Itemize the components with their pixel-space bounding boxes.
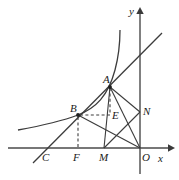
point-label-C: C [42, 152, 49, 163]
y-axis-label: y [129, 6, 134, 17]
point-label-A: A [103, 74, 110, 85]
point-label-N: N [143, 106, 150, 117]
point-dot-A [108, 85, 112, 89]
segment-A-M [104, 87, 110, 148]
y-axis-arrowhead [136, 7, 143, 14]
x-axis-label: x [158, 153, 163, 164]
point-label-M: M [99, 152, 108, 163]
figure-canvas [0, 0, 179, 180]
point-label-O: O [142, 152, 150, 163]
point-label-E: E [112, 110, 119, 121]
y-axis-group [136, 7, 143, 174]
secant-line-CBA [33, 33, 162, 163]
point-label-B: B [70, 103, 77, 114]
segment-N-M [104, 112, 140, 148]
point-label-F: F [73, 152, 80, 163]
x-axis-arrowhead [168, 144, 175, 151]
geometry-figure: A B E N M F C O x y [0, 0, 179, 180]
